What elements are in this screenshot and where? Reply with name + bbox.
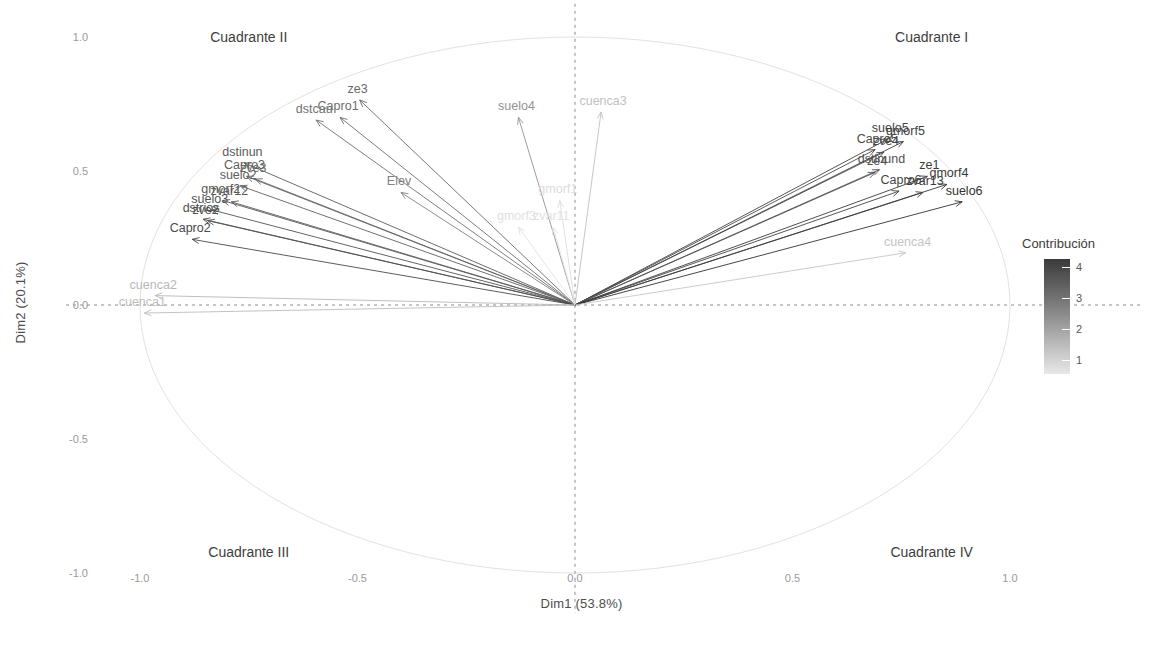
x-tick-label: 0.0 xyxy=(567,572,582,584)
quadrant-label: Cuadrante IV xyxy=(890,544,973,560)
variable-arrow xyxy=(244,163,575,305)
variable-arrow xyxy=(575,172,875,305)
variable-arrow xyxy=(240,185,575,305)
variable-arrow xyxy=(316,120,575,305)
variable-arrow xyxy=(575,152,884,305)
variable-arrow xyxy=(144,305,575,316)
legend-tick-mark xyxy=(1062,298,1070,299)
x-axis-title: Dim1 (53.8%) xyxy=(0,596,1163,611)
legend-tick-mark xyxy=(1062,329,1070,330)
legend-colorbar xyxy=(1044,259,1070,374)
legend-colorbar-wrap: 4321 xyxy=(1044,259,1152,374)
variable-arrow xyxy=(575,191,899,305)
y-tick-label: 0.5 xyxy=(58,165,88,177)
quadrant-label: Cuadrante II xyxy=(210,29,287,45)
pca-biplot-svg xyxy=(0,0,1163,646)
variable-arrow xyxy=(575,176,927,305)
variable-arrow xyxy=(575,251,906,305)
legend-tick-mark xyxy=(1062,360,1070,361)
legend-tick-label: 4 xyxy=(1076,261,1082,273)
x-tick-label: 1.0 xyxy=(1002,572,1017,584)
variable-arrow xyxy=(575,112,603,305)
x-tick-label: 0.5 xyxy=(785,572,800,584)
quadrant-label: Cuadrante I xyxy=(895,29,968,45)
quadrant-label: Cuadrante III xyxy=(208,544,289,560)
legend-tick-label: 2 xyxy=(1076,323,1082,335)
variable-arrow xyxy=(401,192,575,305)
y-tick-label: 0.0 xyxy=(58,299,88,311)
variable-arrow xyxy=(231,201,575,305)
y-axis-title: Dim2 (20.1%) xyxy=(13,213,28,393)
variable-arrow xyxy=(212,209,575,305)
legend-title: Contribución xyxy=(1022,236,1152,251)
y-tick-label: -1.0 xyxy=(58,567,88,579)
y-tick-label: -0.5 xyxy=(58,433,88,445)
legend-tick-label: 1 xyxy=(1076,354,1082,366)
y-tick-label: 1.0 xyxy=(58,31,88,43)
variable-arrow xyxy=(518,117,575,305)
x-tick-label: -1.0 xyxy=(131,572,150,584)
legend: Contribución 4321 xyxy=(1022,236,1152,374)
variable-arrow xyxy=(360,100,575,305)
chart-canvas: ze3Capro1dstcaudstinunCapro3zve3suelo2gm… xyxy=(0,0,1163,646)
legend-tick-mark xyxy=(1062,267,1070,268)
variable-arrow xyxy=(340,117,575,305)
legend-tick-label: 3 xyxy=(1076,292,1082,304)
x-tick-label: -0.5 xyxy=(348,572,367,584)
